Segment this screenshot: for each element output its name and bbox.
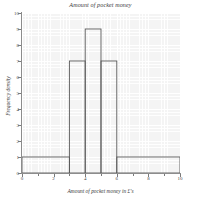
histogram-bar <box>69 61 85 173</box>
y-axis-title: Frequency density <box>5 46 11 146</box>
y-tick-mark <box>18 157 21 158</box>
x-minor-tick-mark <box>69 174 70 176</box>
histogram-chart: Amount of pocket money 012345678910 0246… <box>0 0 201 201</box>
y-tick-mark <box>18 109 21 110</box>
y-tick-label: 0 <box>0 171 19 176</box>
x-tick-mark <box>148 174 149 177</box>
x-minor-tick-mark <box>38 174 39 176</box>
y-tick-mark <box>18 29 21 30</box>
x-axis-title: Amount of pocket money in £'s <box>0 188 201 194</box>
y-tick-label: 9 <box>0 27 19 32</box>
histogram-bar <box>101 61 117 173</box>
bars-group <box>22 29 180 173</box>
x-tick-mark <box>85 174 86 177</box>
x-tick-mark <box>54 174 55 177</box>
chart-title: Amount of pocket money <box>0 2 201 8</box>
x-tick-mark <box>22 174 23 177</box>
x-tick-mark <box>117 174 118 177</box>
y-tick-mark <box>18 61 21 62</box>
x-tick-mark <box>180 174 181 177</box>
x-minor-tick-mark <box>164 174 165 176</box>
histogram-bar <box>117 157 180 173</box>
x-minor-tick-mark <box>101 174 102 176</box>
y-tick-mark <box>18 13 21 14</box>
histogram-bar <box>22 157 69 173</box>
y-axis-line <box>21 12 22 174</box>
y-tick-mark <box>18 141 21 142</box>
y-tick-mark <box>18 125 21 126</box>
y-tick-mark <box>18 173 21 174</box>
histogram-bars <box>22 13 180 173</box>
y-tick-mark <box>18 93 21 94</box>
histogram-bar <box>85 29 101 173</box>
y-tick-label: 10 <box>0 11 19 16</box>
y-tick-mark <box>18 45 21 46</box>
y-tick-label: 1 <box>0 155 19 160</box>
x-minor-tick-mark <box>133 174 134 176</box>
plot-area <box>22 13 180 173</box>
y-tick-mark <box>18 77 21 78</box>
